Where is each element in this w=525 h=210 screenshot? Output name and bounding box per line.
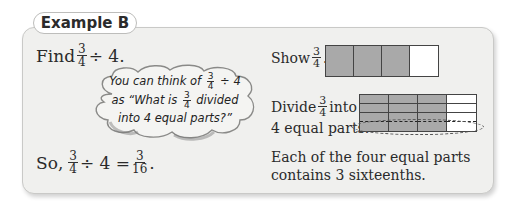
divide-step-label: Divide 3 4 into 4 equal parts. — [271, 95, 369, 138]
shaded-sixteenth — [360, 104, 389, 113]
shaded-part — [354, 46, 382, 76]
shaded-sixteenth — [389, 95, 418, 104]
shaded-sixteenth — [418, 104, 447, 113]
three-fourths-bar-model — [325, 45, 439, 77]
conclusion-fraction: 3 4 — [68, 150, 78, 175]
shaded-sixteenth — [389, 104, 418, 113]
bubble-fraction-2: 3 4 — [183, 91, 191, 110]
thought-bubble-text: You can think of 3 4 ÷ 4 as “What is 3 4… — [90, 72, 260, 127]
problem-prefix: Find — [36, 46, 75, 66]
conclusion-result-fraction: 3 16 — [132, 150, 147, 175]
shaded-sixteenth — [418, 95, 447, 104]
summary-text: Each of the four equal parts contains 3 … — [271, 148, 470, 184]
problem-operation: ÷ 4. — [89, 46, 125, 66]
bubble-fraction-1: 3 4 — [207, 72, 215, 91]
show-fraction: 3 4 — [312, 46, 321, 69]
shaded-part — [382, 46, 410, 76]
problem-fraction: 3 4 — [77, 43, 87, 68]
thought-bubble: You can think of 3 4 ÷ 4 as “What is 3 4… — [90, 64, 260, 144]
conclusion-statement: So, 3 4 ÷ 4 = 3 16 . — [36, 150, 155, 175]
show-step-label: Show 3 4 . — [271, 46, 327, 69]
shaded-part — [326, 46, 354, 76]
highlighted-part-outline — [352, 119, 484, 135]
divide-fraction: 3 4 — [318, 95, 327, 118]
unshaded-sixteenth — [447, 104, 476, 113]
shaded-sixteenth — [360, 95, 389, 104]
example-tab-label: Example B — [33, 12, 137, 34]
unshaded-sixteenth — [447, 95, 476, 104]
unshaded-part — [410, 46, 438, 76]
